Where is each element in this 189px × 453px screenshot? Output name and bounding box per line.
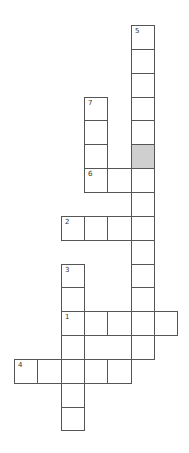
crossword-cell[interactable] (107, 311, 132, 336)
crossword-cell[interactable] (84, 359, 108, 384)
crossword-cell[interactable] (131, 49, 155, 74)
crossword-cell-shaded[interactable] (131, 144, 155, 169)
crossword-cell[interactable] (154, 311, 178, 336)
crossword-cell[interactable] (131, 287, 155, 312)
crossword-cell[interactable] (37, 359, 62, 384)
crossword-cell[interactable] (61, 287, 85, 312)
crossword-cell[interactable] (61, 407, 85, 431)
crossword-cell[interactable]: 1 (61, 311, 85, 336)
crossword-cell[interactable] (131, 264, 155, 288)
crossword-cell[interactable] (84, 311, 108, 336)
crossword-cell[interactable] (131, 311, 155, 336)
crossword-cell[interactable] (131, 73, 155, 98)
crossword-cell[interactable] (61, 359, 85, 384)
crossword-cell[interactable] (107, 216, 132, 241)
crossword-cell[interactable] (84, 144, 108, 169)
crossword-cell[interactable] (84, 120, 108, 145)
clue-number: 4 (18, 361, 22, 369)
crossword-cell[interactable] (131, 335, 155, 360)
crossword-grid: 5762314 (0, 0, 189, 453)
crossword-cell[interactable]: 2 (61, 216, 85, 241)
clue-number: 3 (65, 266, 69, 274)
clue-number: 7 (88, 99, 92, 107)
crossword-cell[interactable] (107, 168, 132, 193)
crossword-cell[interactable]: 7 (84, 97, 108, 121)
crossword-cell[interactable] (107, 359, 132, 384)
crossword-cell[interactable] (61, 335, 85, 360)
crossword-cell[interactable] (61, 383, 85, 408)
crossword-cell[interactable]: 4 (14, 359, 38, 384)
crossword-cell[interactable] (131, 97, 155, 121)
clue-number: 1 (65, 313, 69, 321)
crossword-cell[interactable] (131, 240, 155, 265)
crossword-cell[interactable]: 5 (131, 25, 155, 50)
crossword-cell[interactable] (131, 216, 155, 241)
crossword-cell[interactable] (84, 216, 108, 241)
clue-number: 6 (88, 170, 92, 178)
clue-number: 5 (135, 27, 139, 35)
clue-number: 2 (65, 218, 69, 226)
crossword-cell[interactable] (131, 192, 155, 217)
crossword-cell[interactable]: 3 (61, 264, 85, 288)
crossword-cell[interactable] (131, 168, 155, 193)
crossword-cell[interactable] (131, 120, 155, 145)
crossword-cell[interactable]: 6 (84, 168, 108, 193)
